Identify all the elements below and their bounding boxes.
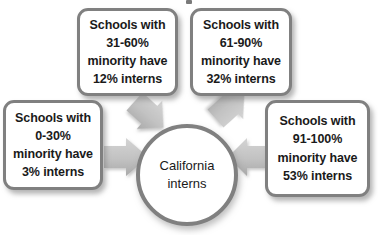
hub-line: interns: [167, 175, 206, 193]
callout-line: Schools with: [15, 109, 91, 127]
callout-line: 91-100%: [293, 130, 342, 148]
callout-line: Schools with: [280, 112, 356, 130]
callout-line: 0-30%: [35, 127, 71, 145]
callout-line: minority have: [13, 145, 93, 163]
callout-line: minority have: [278, 149, 358, 167]
callout-line: 3% interns: [22, 163, 84, 181]
callout-line: Schools with: [203, 16, 279, 34]
callout-minority-0-30[interactable]: Schools with 0-30% minority have 3% inte…: [3, 100, 103, 190]
callout-minority-61-90[interactable]: Schools with 61-90% minority have 32% in…: [190, 8, 292, 96]
callout-line: 61-90%: [220, 34, 263, 52]
callout-line: 32% interns: [206, 70, 275, 88]
callout-line: minority have: [88, 52, 168, 70]
callout-line: 53% interns: [283, 167, 352, 185]
callout-line: Schools with: [90, 16, 166, 34]
hub-line: California: [160, 157, 215, 175]
callout-line: 12% interns: [93, 70, 162, 88]
callout-minority-31-60[interactable]: Schools with 31-60% minority have 12% in…: [77, 8, 178, 96]
diagram-canvas: Schools with 31-60% minority have 12% in…: [0, 0, 378, 235]
callout-minority-91-100[interactable]: Schools with 91-100% minority have 53% i…: [265, 100, 370, 197]
callout-line: minority have: [201, 52, 281, 70]
california-interns-hub[interactable]: California interns: [136, 124, 238, 226]
callout-line: 31-60%: [106, 34, 149, 52]
